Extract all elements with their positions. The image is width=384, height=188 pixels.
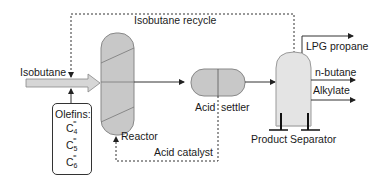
olefin-c4: C4= bbox=[66, 122, 78, 135]
isobutane-recycle-label: Isobutane recycle bbox=[134, 14, 216, 26]
acid-settler-vessel bbox=[191, 69, 245, 96]
lpg-propane-label: LPG propane bbox=[306, 40, 368, 52]
olefin-carbon-count: 5 bbox=[74, 145, 78, 152]
olefin-c6: C6= bbox=[66, 156, 78, 169]
reactor-vessel bbox=[101, 33, 134, 135]
reactor-label: Reactor bbox=[121, 130, 158, 142]
isobutane-feed-label: Isobutane bbox=[20, 66, 66, 78]
olefins-feed-box: Olefins: C4= C5= C6= bbox=[52, 103, 92, 175]
n-butane-label: n-butane bbox=[315, 66, 356, 78]
double-bond-mark: = bbox=[73, 153, 76, 159]
olefin-carbon-count: 6 bbox=[74, 162, 78, 169]
acid-catalyst-label: Acid catalyst bbox=[154, 146, 213, 158]
olefin-carbon-count: 4 bbox=[74, 128, 78, 135]
acid-settler-label-left: Acid bbox=[195, 101, 215, 113]
double-bond-mark: = bbox=[73, 119, 76, 125]
product-separator-label: Product Separator bbox=[251, 133, 336, 145]
acid-settler-label-right: settler bbox=[221, 101, 250, 113]
alkylate-label: Alkylate bbox=[313, 84, 350, 96]
double-bond-mark: = bbox=[73, 136, 76, 142]
olefin-c5: C5= bbox=[66, 139, 78, 152]
